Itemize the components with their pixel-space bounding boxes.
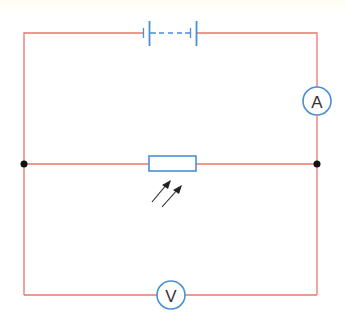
voltmeter: V xyxy=(157,281,185,309)
voltmeter-label: V xyxy=(165,287,177,306)
ammeter: A xyxy=(303,87,331,115)
light-arrows-icon xyxy=(152,180,182,207)
circuit-diagram: A V xyxy=(0,0,345,325)
battery-symbol xyxy=(144,21,197,46)
junction-right xyxy=(314,161,321,168)
ammeter-label: A xyxy=(311,93,323,112)
circuit-svg: A V xyxy=(0,0,345,325)
ldr-branch xyxy=(24,156,317,171)
junction-left xyxy=(21,161,28,168)
ldr-resistor-symbol xyxy=(149,156,196,171)
